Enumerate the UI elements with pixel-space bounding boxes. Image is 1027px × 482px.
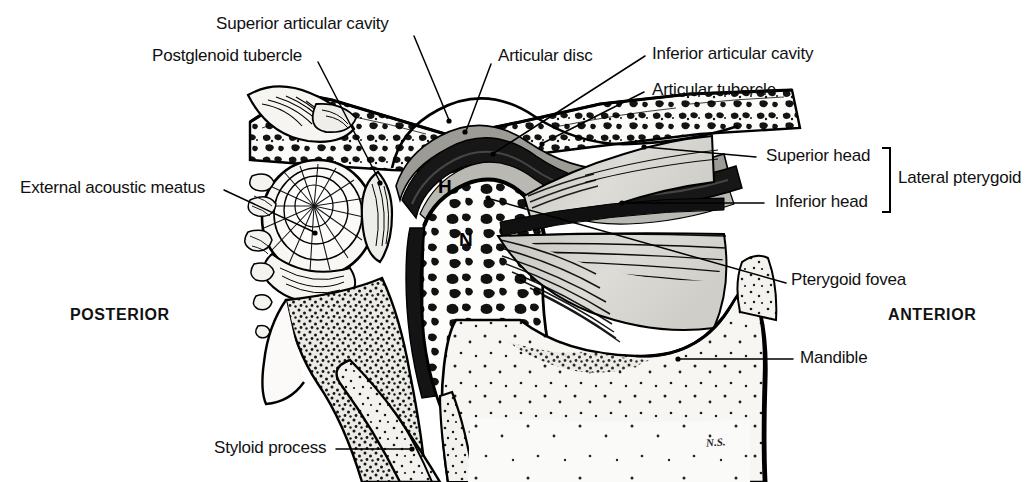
artist-signature: N.S.: [706, 435, 726, 448]
mandible-body-stipple: [468, 418, 750, 482]
label-condylar-neck: N: [459, 229, 473, 251]
label-lateral-pterygoid: Lateral pterygoid: [898, 168, 1021, 187]
label-pterygoid-fovea: Pterygoid fovea: [791, 270, 906, 289]
tmj-illustration: [0, 0, 1027, 482]
label-superior-head: Superior head: [766, 146, 870, 165]
label-posterior: POSTERIOR: [70, 305, 170, 324]
label-external-acoustic-meatus: External acoustic meatus: [20, 178, 205, 197]
label-articular-disc: Articular disc: [498, 46, 593, 65]
label-superior-articular-cavity: Superior articular cavity: [216, 14, 389, 33]
label-condylar-head: H: [438, 176, 452, 198]
label-inferior-articular-cavity: Inferior articular cavity: [652, 44, 813, 63]
label-postglenoid-tubercle: Postglenoid tubercle: [152, 46, 302, 65]
label-inferior-head: Inferior head: [775, 192, 868, 211]
coronoid-wedge: [737, 256, 776, 320]
label-mandible: Mandible: [800, 348, 867, 367]
label-articular-tubercle: Articular tubercle: [652, 80, 776, 99]
anatomical-figure: [0, 0, 1027, 482]
label-anterior: ANTERIOR: [888, 305, 976, 324]
label-styloid-process: Styloid process: [214, 438, 326, 457]
